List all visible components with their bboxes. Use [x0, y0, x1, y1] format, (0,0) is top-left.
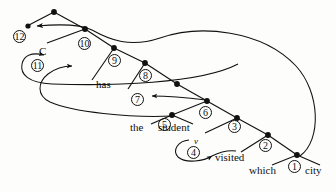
dot-node-6: [204, 98, 210, 104]
node-label-8: 8: [139, 69, 152, 82]
node-label-12: 12: [13, 30, 26, 43]
node-label-10: 10: [78, 37, 91, 50]
dot-node-12: [25, 23, 30, 28]
arc-to-11: [22, 54, 238, 85]
node-label-6: 6: [199, 106, 212, 119]
word-has: has: [96, 79, 111, 90]
node-label-4: 4: [187, 146, 200, 159]
dot-node-8: [142, 60, 148, 66]
arc-6-to-7: [152, 96, 206, 100]
word-visited: visited: [215, 152, 244, 163]
node-label-2: 2: [259, 139, 272, 152]
edge-root-to-12: [29, 12, 54, 25]
word-which: which: [249, 165, 276, 176]
dot-root: [51, 9, 57, 15]
node-label-1: 1: [288, 160, 301, 173]
edge-3-to-2: [237, 118, 268, 135]
dot-node-10: [82, 26, 88, 32]
dot-node-5: [169, 112, 175, 118]
category-label-C: C: [39, 46, 46, 57]
node-label-7: 7: [131, 93, 144, 106]
node-label-3: 3: [228, 120, 241, 133]
derivation-diagram: [0, 0, 336, 192]
word-city: city: [305, 165, 322, 176]
node-label-9: 9: [108, 54, 121, 67]
category-label-v: v: [194, 137, 198, 146]
dot-node-2: [265, 132, 271, 138]
dot-node-9: [111, 45, 117, 51]
figure-canvas: 12 11 10 9 8 7 6 5 4 3 2 1 C v has the s…: [0, 0, 336, 192]
arc-5-to-mid: [40, 66, 172, 116]
dot-node-7: [174, 81, 180, 87]
edge-2-to-1: [268, 135, 297, 155]
dot-node-1: [294, 152, 300, 158]
word-student: student: [158, 122, 190, 133]
tree-edges: [29, 12, 320, 165]
node-dots: [25, 9, 300, 158]
node-label-11: 11: [31, 59, 44, 72]
word-the: the: [130, 122, 143, 133]
movement-arcs: [22, 25, 316, 161]
